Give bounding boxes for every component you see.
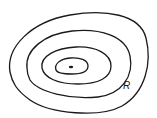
- contour-plot: [0, 0, 157, 118]
- contour-third: [42, 47, 111, 84]
- contour-diagram: R: [0, 0, 157, 118]
- region-label: R: [123, 81, 130, 91]
- center-point: [69, 66, 73, 69]
